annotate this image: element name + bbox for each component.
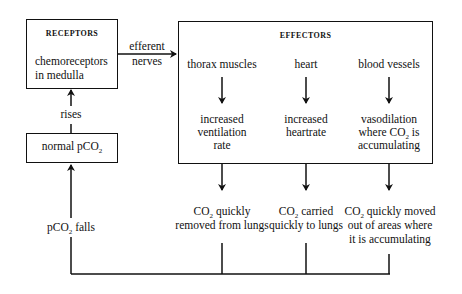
outcome-3-line3: it is accumulating bbox=[338, 233, 442, 246]
effector-blood-vessels: blood vessels bbox=[345, 58, 433, 71]
response-heart-line2: heartrate bbox=[271, 126, 341, 139]
response-thorax-line2: ventilation bbox=[182, 126, 262, 139]
response-thorax-line1: increased bbox=[182, 113, 262, 126]
response-vessels-line3: accumulating bbox=[349, 139, 429, 152]
efferent-label-line1: efferent bbox=[118, 40, 176, 53]
receptors-label-line1: chemoreceptors bbox=[35, 55, 108, 68]
effector-thorax-muscles: thorax muscles bbox=[177, 58, 267, 71]
efferent-label-line2: nerves bbox=[118, 55, 176, 68]
outcome-3-line2: out of areas where bbox=[338, 219, 442, 232]
receptors-heading: RECEPTORS bbox=[26, 29, 118, 38]
rises-label: rises bbox=[46, 108, 96, 121]
normal-pco2-label: normal pCO2 bbox=[26, 140, 118, 155]
response-vessels-line1: vasodilation bbox=[349, 113, 429, 126]
outcome-3-line1: CO2 quickly moved bbox=[338, 205, 442, 220]
effector-heart: heart bbox=[276, 58, 336, 71]
response-thorax-line3: rate bbox=[182, 139, 262, 152]
pco2-falls-label: pCO2 falls bbox=[36, 221, 106, 236]
receptors-label-line2: in medulla bbox=[35, 69, 84, 82]
effectors-heading: EFFECTORS bbox=[178, 31, 433, 40]
feedback-loop-diagram: RECEPTORS chemoreceptors in medulla effe… bbox=[0, 0, 462, 294]
response-heart-line1: increased bbox=[271, 113, 341, 126]
